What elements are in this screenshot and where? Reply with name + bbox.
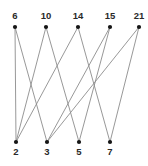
node-label: 2	[13, 146, 18, 157]
nodes-group	[13, 25, 141, 144]
node-label: 6	[12, 10, 17, 21]
graph-canvas: 6101415212357	[0, 0, 148, 166]
edges-group	[15, 27, 139, 142]
graph-node	[108, 25, 112, 29]
graph-node	[137, 25, 141, 29]
graph-node	[77, 140, 81, 144]
graph-node	[45, 140, 49, 144]
graph-edge	[16, 27, 78, 142]
graph-node	[14, 140, 18, 144]
graph-node	[44, 25, 48, 29]
bipartite-graph-figure: 6101415212357	[0, 0, 148, 166]
graph-node	[76, 25, 80, 29]
graph-edge	[15, 27, 16, 142]
graph-edge	[46, 27, 79, 142]
node-label: 15	[105, 10, 116, 21]
graph-edge	[47, 27, 139, 142]
graph-node	[13, 25, 17, 29]
node-label: 10	[41, 10, 52, 21]
graph-edge	[16, 27, 46, 142]
graph-edge	[47, 27, 110, 142]
node-label: 21	[134, 10, 145, 21]
node-label: 5	[76, 146, 82, 157]
node-label: 3	[44, 146, 49, 157]
graph-edge	[110, 27, 139, 142]
node-label: 14	[73, 10, 84, 21]
node-label: 7	[107, 146, 112, 157]
graph-node	[108, 140, 112, 144]
